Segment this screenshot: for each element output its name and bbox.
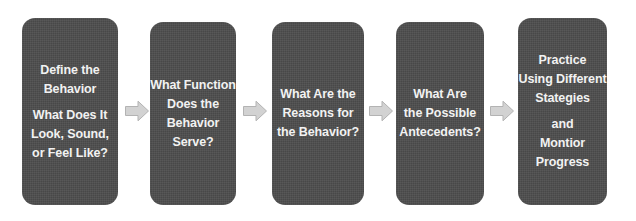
flow-step-text-line: or Feel Like?	[32, 144, 108, 163]
flow-step-text-line: and	[552, 115, 574, 134]
flow-step-text-line: Using Different	[518, 70, 606, 89]
flow-step-text-line: What Function	[150, 76, 236, 95]
flow-step-text-gap	[70, 99, 71, 106]
flow-step-what-function-does-the-behavior-serve[interactable]: What FunctionDoes theBehaviorServe?	[150, 22, 236, 205]
flow-step-define-the-behavior[interactable]: Define theBehaviorWhat Does ItLook, Soun…	[22, 18, 118, 205]
flow-step-text-line: Serve?	[172, 133, 213, 152]
flow-step-what-are-the-reasons-for-the-behavior[interactable]: What Are theReasons forthe Behavior?	[272, 22, 364, 205]
flow-step-text-line: Look, Sound,	[31, 125, 109, 144]
flow-step-text-line: Antecedents?	[399, 123, 480, 142]
flow-step-text-line: Define the	[40, 61, 99, 80]
flow-step-text-line: Reasons for	[282, 104, 353, 123]
right-arrow-icon	[124, 98, 150, 124]
flow-step-text-line: Behavior	[44, 80, 97, 99]
flow-step-text-line: Progress	[536, 153, 589, 172]
flow-step-text-line: Stategies	[535, 89, 590, 108]
right-arrow-icon	[368, 98, 394, 124]
flow-step-practice-using-different-stategies-and-montior-progress[interactable]: PracticeUsing DifferentStategiesandMonti…	[518, 18, 607, 205]
flow-step-what-are-the-possible-antecedents[interactable]: What Arethe PossibleAntecedents?	[396, 22, 484, 205]
flow-step-text-line: the Behavior?	[277, 123, 359, 142]
flow-step-text-line: What Does It	[33, 106, 108, 125]
flow-step-text-line: Behavior	[167, 114, 220, 133]
flow-step-text-line: the Possible	[404, 104, 476, 123]
right-arrow-icon	[242, 98, 268, 124]
right-arrow-icon	[489, 98, 515, 124]
flow-step-text-line: What Are	[413, 85, 467, 104]
flow-step-text-line: What Are the	[280, 85, 355, 104]
flow-step-text-gap	[562, 108, 563, 115]
flow-step-text-line: Practice	[539, 51, 587, 70]
flow-step-text-line: Does the	[167, 95, 219, 114]
flow-step-text-line: Montior	[540, 134, 585, 153]
process-flow-diagram: Define theBehaviorWhat Does ItLook, Soun…	[0, 0, 636, 221]
